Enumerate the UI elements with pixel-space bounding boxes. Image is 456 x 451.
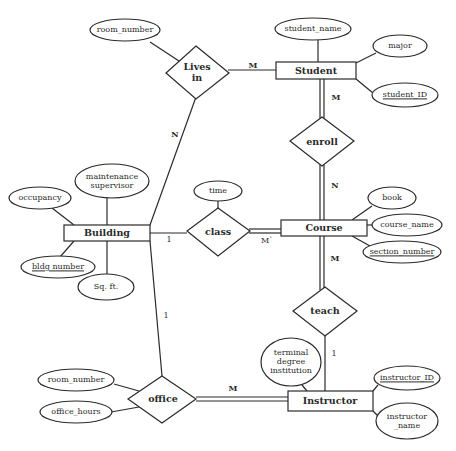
attr-instructor-id: instructor_ID xyxy=(380,373,434,382)
attr-office-hours: office_hours xyxy=(51,407,100,416)
cardinality-class-building: 1 xyxy=(166,235,171,244)
attr-terminal-line3: institution xyxy=(270,367,312,376)
attr-section-number: section_number xyxy=(370,247,435,256)
cardinality-teach-course: M xyxy=(331,254,340,263)
attr-terminal-line2: degree xyxy=(270,357,312,366)
cardinality-lives-in-student: M xyxy=(249,61,258,70)
attr-room-number-office: room_number xyxy=(48,375,105,384)
relationship-lives-in: Lives in xyxy=(183,62,210,84)
attr-instructor-name: instructor _name xyxy=(387,412,427,430)
cardinality-enroll-student: M xyxy=(332,93,341,102)
entity-building: Building xyxy=(84,228,130,239)
cardinality-office-instructor: M xyxy=(229,384,238,393)
attr-book: book xyxy=(382,193,402,202)
attr-major: major xyxy=(388,41,411,50)
relationship-office: office xyxy=(148,394,178,405)
attr-room-number-top: room_number xyxy=(97,25,154,34)
attr-terminal-line1: terminal xyxy=(270,348,312,357)
cardinality-class-course: M` xyxy=(261,236,273,245)
attr-time: time xyxy=(209,186,227,195)
cardinality-lives-in-building: N xyxy=(171,130,178,139)
attr-sq-ft: Sq. ft. xyxy=(94,282,118,291)
attr-student-id: student_ID xyxy=(383,90,427,99)
relationship-teach: teach xyxy=(310,306,339,317)
attr-instructor-name-line1: instructor xyxy=(387,412,427,421)
cardinality-enroll-course: N xyxy=(331,181,338,190)
relationship-class: class xyxy=(205,227,231,238)
relationship-enroll: enroll xyxy=(306,137,338,148)
relationship-lives-in-line2: in xyxy=(183,73,210,84)
entity-student: Student xyxy=(295,66,337,77)
entity-instructor: Instructor xyxy=(303,396,358,407)
cardinality-teach-instructor: 1 xyxy=(331,349,336,358)
attr-instructor-name-line2: _name xyxy=(387,421,427,430)
attr-student-name: student_name xyxy=(285,24,342,33)
attr-bldg-number: bldg number xyxy=(32,262,84,271)
attr-course-name: course_name xyxy=(380,220,433,229)
entity-course: Course xyxy=(305,223,342,234)
attr-terminal-degree-institution: terminal degree institution xyxy=(270,348,312,376)
attr-occupancy: occupancy xyxy=(19,193,62,202)
attr-maintenance-line1: maintenance xyxy=(86,172,138,181)
attr-maintenance-line2: supervisor xyxy=(86,181,138,190)
cardinality-office-building: 1 xyxy=(163,311,168,320)
attr-maintenance-supervisor: maintenance supervisor xyxy=(86,172,138,190)
er-diagram: Student Course Building Instructor Lives… xyxy=(0,0,456,451)
